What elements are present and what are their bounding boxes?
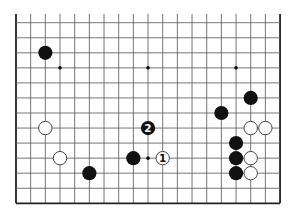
star-point [58,66,62,70]
star-point [146,66,150,70]
move-number-label: 2 [144,122,151,134]
star-point [146,156,150,160]
white-stone [244,121,257,134]
black-stone [244,91,258,105]
white-stone [244,151,257,164]
white-stone [53,151,66,164]
black-stone [38,46,52,60]
star-point [234,66,238,70]
black-stone [126,151,140,165]
black-stone [229,166,243,180]
go-board-svg: 21 [0,0,295,216]
white-stone [244,167,257,180]
black-stone [82,166,96,180]
black-stone [229,136,243,150]
go-board: 21 [0,0,295,216]
black-stone [229,151,243,165]
white-stone [39,121,52,134]
white-stone [259,121,272,134]
move-number-label: 1 [159,152,166,164]
black-stone [214,106,228,120]
